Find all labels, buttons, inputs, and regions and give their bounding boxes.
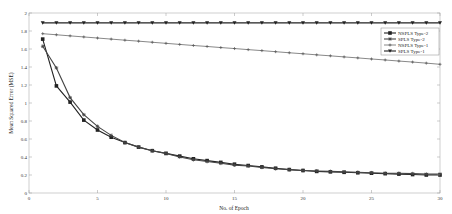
x-axis-label: No. of Epoch [219, 205, 249, 211]
x-tick-label: 30 [438, 196, 444, 201]
star-marker [301, 169, 305, 173]
star-marker [205, 160, 209, 164]
legend-label: SPLS Type-2 [398, 37, 425, 42]
star-marker [397, 171, 401, 175]
y-tick-label: 1.8 [21, 29, 28, 34]
y-tick-label: 1.2 [21, 83, 28, 88]
square-marker [68, 100, 72, 104]
star-marker [370, 171, 374, 175]
x-tick-label: 5 [96, 196, 99, 201]
y-tick-label: 1 [25, 101, 28, 106]
star-marker [260, 166, 264, 170]
star-marker [274, 167, 278, 171]
star-marker [233, 163, 237, 167]
y-tick-label: 0.4 [21, 155, 28, 160]
legend-label: NSPLS Type-1 [398, 43, 429, 48]
star-marker [329, 170, 333, 174]
star-marker [164, 152, 168, 156]
x-tick-label: 25 [369, 196, 375, 201]
star-marker [411, 172, 415, 176]
star-marker [288, 168, 292, 172]
star-marker [246, 164, 250, 168]
star-marker [41, 45, 45, 49]
y-tick-label: 2 [25, 11, 28, 16]
y-tick-label: 0.8 [21, 119, 28, 124]
y-tick-label: 0.6 [21, 137, 28, 142]
square-marker [82, 118, 86, 122]
x-tick-label: 15 [232, 196, 238, 201]
square-marker [41, 37, 45, 41]
x-tick-label: 0 [28, 196, 31, 201]
square-marker [388, 31, 392, 35]
x-tick-label: 20 [301, 196, 307, 201]
star-marker [388, 37, 392, 41]
y-axis-label: Mean Squared Error (MSE) [8, 72, 15, 133]
star-marker [315, 169, 319, 173]
legend: NSPLS Type-2SPLS Type-2NSPLS Type-1SPLS … [381, 28, 439, 55]
legend-label: SPLS Type-1 [398, 49, 425, 54]
y-tick-label: 0.2 [21, 173, 28, 178]
star-marker [151, 149, 155, 153]
star-marker [383, 171, 387, 175]
x-tick-label: 10 [164, 196, 170, 201]
y-tick-label: 1.4 [21, 65, 28, 70]
star-marker [425, 172, 429, 176]
y-tick-label: 1.6 [21, 47, 28, 52]
star-marker [356, 171, 360, 175]
star-marker [178, 155, 182, 159]
star-marker [109, 134, 113, 138]
mse-line-chart: 05101520253000.20.40.60.811.21.41.61.82 … [0, 0, 452, 214]
star-marker [96, 125, 100, 129]
star-marker [219, 162, 223, 166]
star-marker [82, 113, 86, 117]
square-marker [55, 84, 59, 88]
star-marker [137, 145, 141, 149]
star-marker [123, 141, 127, 145]
star-marker [68, 96, 72, 100]
square-marker [96, 128, 100, 132]
star-marker [438, 172, 442, 176]
star-marker [192, 158, 196, 162]
legend-label: NSPLS Type-2 [398, 31, 429, 36]
star-marker [342, 170, 346, 174]
star-marker [55, 66, 59, 70]
